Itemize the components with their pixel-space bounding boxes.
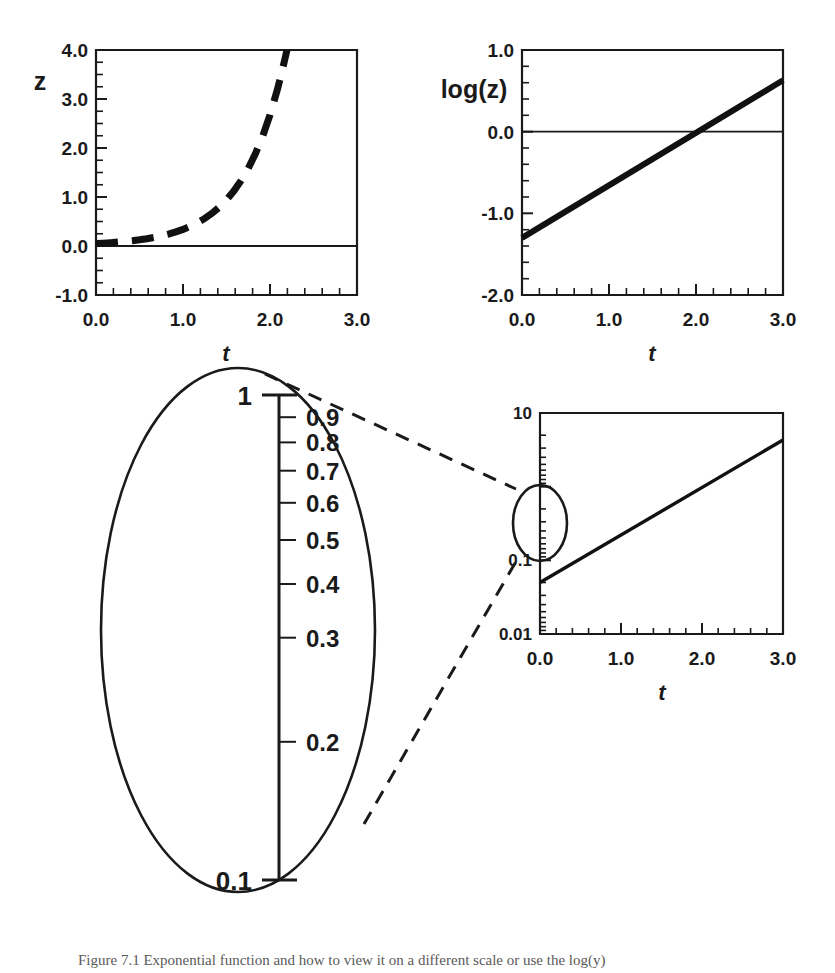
magnified-decade: 0.9 0.8 0.7 0.6 0.5 0.4 0.3 0.2 1 0.1: [101, 368, 518, 896]
panel-log-linear-fit: [522, 80, 783, 238]
panel-logscale-x-axis-title: t: [658, 680, 667, 705]
panel-logscale: 10 0.1 0.01 0.0 1.0 2.0 3.0 t: [499, 404, 796, 705]
panel-log-x-major-ticks: [522, 284, 783, 295]
panel-linear-x-axis-title: t: [222, 341, 231, 366]
panel-logscale-x-tick-labels: 0.0 1.0 2.0 3.0: [527, 648, 796, 669]
ytick-label: 0.01: [499, 625, 532, 644]
scale-tick-label: 0.2: [306, 729, 339, 756]
ytick-label: 10: [513, 404, 532, 423]
panel-log-y-major-ticks: [522, 50, 533, 295]
panel-linear-y-tick-labels: 4.0 3.0 2.0 1.0 0.0 -1.0: [55, 40, 88, 306]
panel-log-x-axis-title: t: [648, 341, 657, 366]
scale-tick-label: 0.6: [306, 490, 339, 517]
ytick-label: -2.0: [481, 285, 514, 306]
xtick-label: 2.0: [257, 309, 283, 330]
magnifier-bottom-label: 0.1: [216, 866, 252, 896]
ytick-label: 4.0: [62, 40, 88, 61]
scale-tick-label: 0.4: [306, 571, 340, 598]
xtick-label: 1.0: [596, 309, 622, 330]
panel-logscale-line: [540, 440, 783, 583]
xtick-label: 0.0: [509, 309, 535, 330]
xtick-label: 2.0: [689, 648, 715, 669]
panel-log-y-axis-title: log(z): [441, 75, 508, 103]
ytick-label: -1.0: [55, 285, 88, 306]
magnifier-connector-top: [265, 374, 516, 489]
panel-log-frame: [522, 50, 783, 295]
magnifier-scale-tick-labels: 0.9 0.8 0.7 0.6 0.5 0.4 0.3 0.2: [306, 404, 340, 756]
xtick-label: 1.0: [608, 648, 634, 669]
panel-linear-x-tick-labels: 0.0 1.0 2.0 3.0: [83, 309, 370, 330]
panel-log: 1.0 0.0 -1.0 -2.0 0.0 1.0 2.0 3.0 log(z)…: [441, 40, 797, 366]
magnifier-top-label: 1: [238, 381, 252, 411]
scale-tick-label: 0.5: [306, 527, 339, 554]
ytick-label: 1.0: [488, 40, 514, 61]
figure-canvas: 4.0 3.0 2.0 1.0 0.0 -1.0 0.0 1.0 2.0 3.0…: [0, 0, 835, 973]
xtick-label: 0.0: [527, 648, 553, 669]
panel-logscale-y-tick-labels: 10 0.1 0.01: [499, 404, 532, 644]
panel-linear: 4.0 3.0 2.0 1.0 0.0 -1.0 0.0 1.0 2.0 3.0…: [34, 40, 370, 366]
figure-caption: Figure 7.1 Exponential function and how …: [78, 952, 778, 969]
scale-tick-label: 0.8: [306, 429, 339, 456]
ytick-label: 1.0: [62, 187, 88, 208]
xtick-label: 3.0: [344, 309, 370, 330]
panel-logscale-y-major-ticks: [540, 413, 551, 634]
xtick-label: 3.0: [770, 648, 796, 669]
panel-logscale-x-major-ticks: [540, 623, 783, 634]
figure-svg: 4.0 3.0 2.0 1.0 0.0 -1.0 0.0 1.0 2.0 3.0…: [0, 0, 835, 973]
ytick-label: 3.0: [62, 89, 88, 110]
scale-tick-label: 0.9: [306, 404, 339, 431]
panel-log-x-tick-labels: 0.0 1.0 2.0 3.0: [509, 309, 796, 330]
ytick-label: 0.0: [488, 122, 514, 143]
xtick-label: 0.0: [83, 309, 109, 330]
xtick-label: 1.0: [170, 309, 196, 330]
panel-logscale-frame: [540, 413, 783, 634]
scale-tick-label: 0.3: [306, 625, 339, 652]
panel-linear-frame: [96, 50, 357, 295]
panel-linear-exponential-curve: [96, 50, 287, 244]
magnifier-connector-bottom: [364, 558, 518, 824]
panel-linear-x-major-ticks: [96, 284, 357, 295]
xtick-label: 2.0: [683, 309, 709, 330]
panel-linear-y-axis-title: z: [34, 67, 47, 95]
magnifier-scale-ticks: [279, 417, 296, 742]
scale-tick-label: 0.7: [306, 458, 339, 485]
ytick-label: -1.0: [481, 203, 514, 224]
xtick-label: 3.0: [770, 309, 796, 330]
ytick-label: 0.0: [62, 236, 88, 257]
ytick-label: 2.0: [62, 138, 88, 159]
